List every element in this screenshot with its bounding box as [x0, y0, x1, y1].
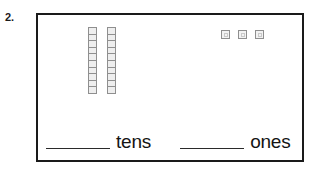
- ones-label: ones: [250, 132, 290, 152]
- ten-rod: [88, 27, 97, 93]
- ones-answer-blank[interactable]: [180, 133, 244, 149]
- unit-cube: [238, 30, 247, 39]
- tens-label: tens: [116, 132, 151, 152]
- ten-rods-group: [88, 27, 116, 93]
- item-number: 2.: [5, 12, 14, 23]
- unit-cube: [221, 30, 230, 39]
- rod-cell: [88, 86, 97, 94]
- unit-cubes-group: [221, 30, 264, 39]
- unit-cube: [255, 30, 264, 39]
- rod-cell: [107, 86, 116, 94]
- tens-answer-group: tens: [46, 132, 151, 152]
- tens-answer-blank[interactable]: [46, 133, 110, 149]
- problem-box: tens ones: [36, 13, 304, 162]
- ones-answer-group: ones: [180, 132, 290, 152]
- worksheet-item: 2.: [0, 0, 317, 177]
- ten-rod: [107, 27, 116, 93]
- answer-row: tens ones: [38, 124, 302, 152]
